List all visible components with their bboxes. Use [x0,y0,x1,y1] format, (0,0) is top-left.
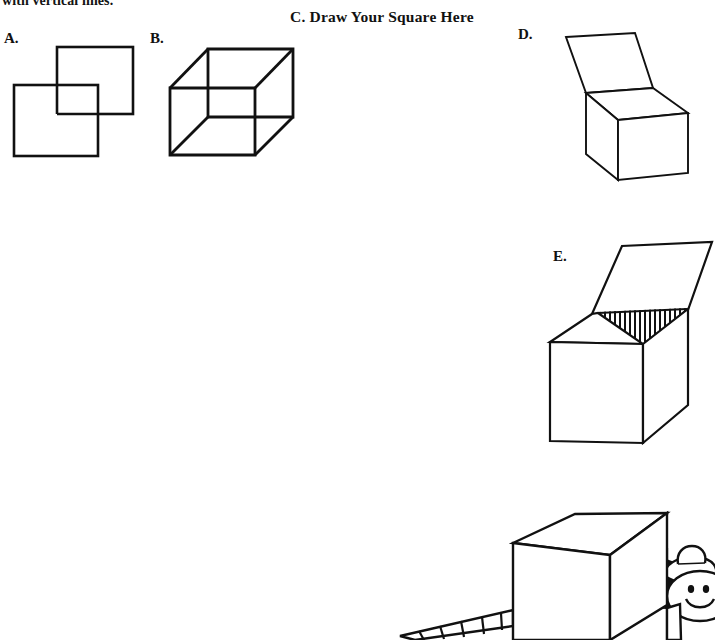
character-hat-crown [678,546,706,564]
figure-label-c-draw-your-square-here: C. Draw Your Square Here [290,8,474,26]
figure-d-box-open-lid [550,25,712,190]
cube-edge-top-right [255,49,293,88]
box-f [513,513,667,640]
ramp-ladder [400,610,513,640]
figure-a-svg [0,0,160,180]
cube-edge-bottom-right [255,117,293,155]
character-body [667,604,681,640]
character-hat-band [678,563,705,564]
figure-d-svg [550,25,712,190]
figure-b-wireframe-cube [160,40,310,170]
figure-label-d: D. [518,26,533,43]
cube-front-face [170,88,255,155]
box-front-face [513,543,610,640]
character-eye-left [688,585,694,593]
drawing-area-c[interactable] [300,40,500,210]
box-lid-flap [592,242,712,314]
figure-f-box-with-character [395,500,712,640]
figure-e-open-box [530,240,715,465]
ramp-rung-5 [501,613,502,630]
figure-a-overlapping-squares [0,0,160,180]
box-front-face [550,342,643,443]
cube-edge-top-left [170,49,208,88]
character-eye-right [703,585,709,593]
cube-back-face [208,49,293,117]
figure-b-svg [160,40,310,170]
box-front-face [618,113,688,180]
figure-e-svg [530,240,715,465]
ramp-body [400,610,513,640]
box-lid-flap [566,33,653,93]
cube-edge-bottom-left [170,117,208,155]
figure-f-svg [395,500,712,640]
